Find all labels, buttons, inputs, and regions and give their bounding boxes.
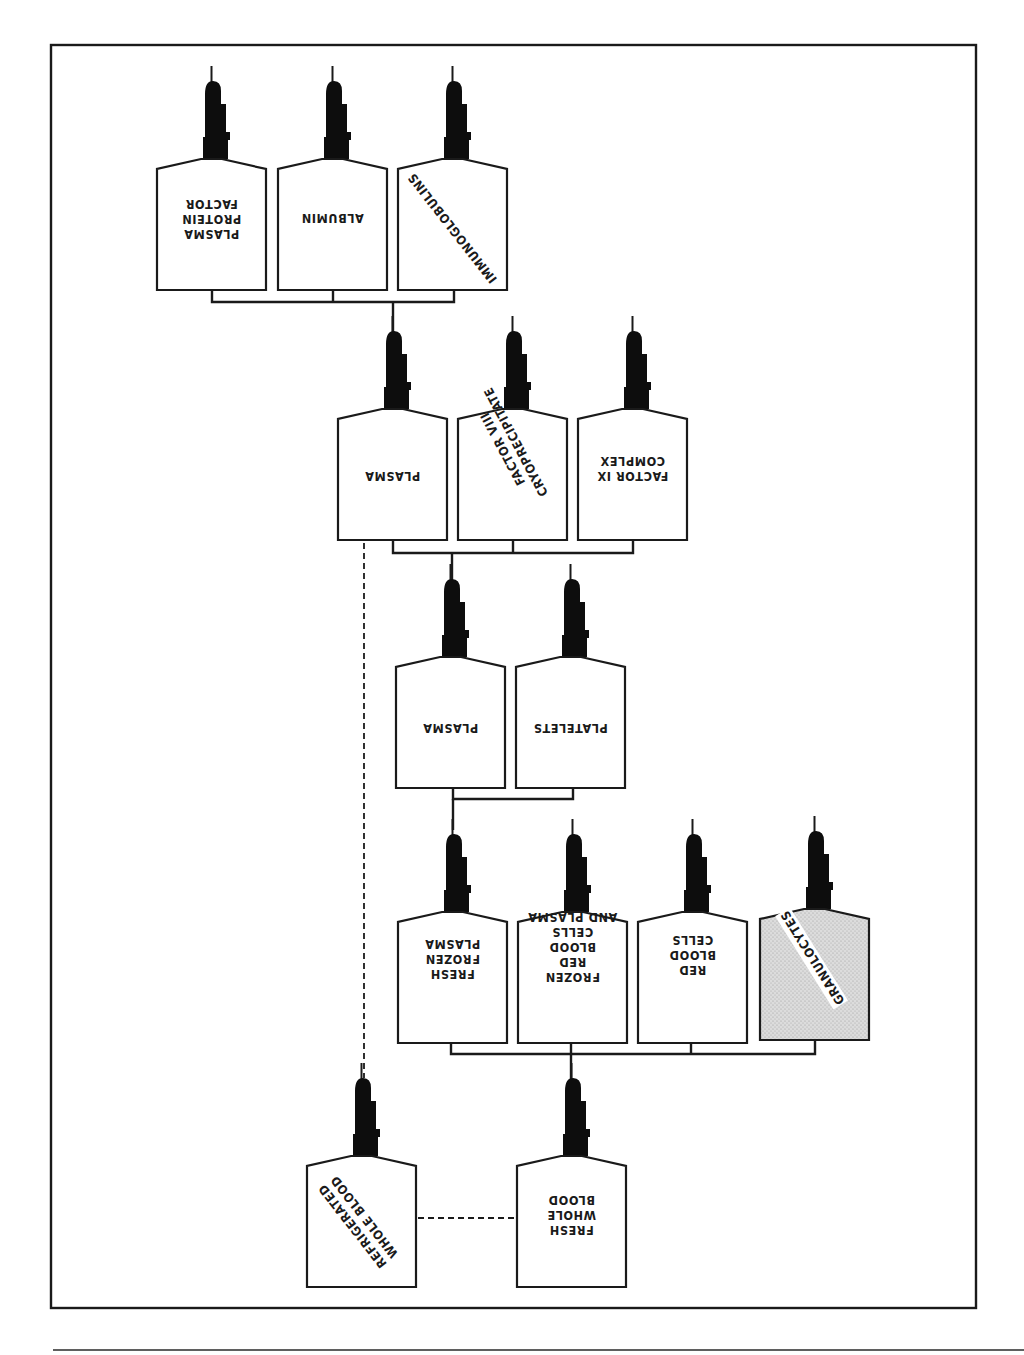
bottle-immunoglobulins: IMMUNOGLOBULINS [398, 66, 507, 290]
svg-text:RED: RED [559, 955, 586, 970]
bottle-cap-icon [203, 66, 230, 159]
bottle-albumin: ALBUMIN [278, 66, 387, 290]
bottle-cap-icon [442, 564, 469, 657]
svg-text:CELLS: CELLS [672, 933, 713, 948]
bottle-frozen-red-blood-cells-and-plasma: FROZEN RED BLOOD CELLS AND PLASMA [518, 819, 627, 1043]
bottle-cap-icon [444, 66, 471, 159]
svg-text:BLOOD: BLOOD [669, 948, 716, 963]
svg-text:FROZEN: FROZEN [545, 970, 600, 985]
svg-text:PROTEIN: PROTEIN [182, 212, 242, 227]
svg-text:FACTOR IX: FACTOR IX [597, 469, 668, 484]
bottle-cap-icon [624, 316, 651, 409]
bottle-cap-icon [324, 66, 351, 159]
bottle-refrigerated-whole-blood: REFRIGERATED WHOLE BLOOD [307, 1063, 416, 1287]
bottle-plasma-protein-factor: PLASMA PROTEIN FACTOR [157, 66, 266, 290]
svg-text:BLOOD: BLOOD [548, 1193, 595, 1208]
bottle-factor-viii-cryoprecipitate: FACTOR VIII CRYOPRECIPITATE [458, 316, 567, 540]
bottle-plasma-row3: PLASMA [396, 564, 505, 788]
svg-text:WHOLE: WHOLE [547, 1208, 596, 1223]
svg-text:PLASMA: PLASMA [425, 937, 481, 952]
svg-text:PLASMA: PLASMA [184, 227, 240, 242]
bottle-granulocytes: GRANULOCYTES [760, 816, 869, 1040]
bottle-cap-icon [564, 819, 591, 912]
svg-text:FACTOR: FACTOR [185, 197, 238, 212]
svg-text:RED: RED [679, 963, 706, 978]
svg-text:FRESH: FRESH [430, 967, 475, 982]
svg-text:CELLS: CELLS [552, 925, 593, 940]
svg-text:AND PLASMA: AND PLASMA [528, 910, 617, 925]
svg-text:COMPLEX: COMPLEX [600, 454, 665, 469]
bottle-cap-icon [806, 816, 833, 909]
svg-text:PLASMA: PLASMA [423, 721, 479, 736]
bottle-fresh-frozen-plasma: FRESH FROZEN PLASMA [398, 819, 507, 1043]
svg-text:ALBUMIN: ALBUMIN [301, 211, 364, 226]
bottle-cap-icon [444, 819, 471, 912]
svg-text:BLOOD: BLOOD [549, 940, 596, 955]
bottle-cap-icon [563, 1063, 590, 1156]
bottle-cap-icon [504, 316, 531, 409]
svg-text:FRESH: FRESH [549, 1223, 594, 1238]
bottle-platelets: PLATELETS [516, 564, 625, 788]
blood-components-diagram: PLASMA PROTEIN FACTOR ALBUMIN IMMUNOGLOB… [0, 0, 1024, 1355]
bottle-cap-icon [562, 564, 589, 657]
bottle-red-blood-cells: RED BLOOD CELLS [638, 819, 747, 1043]
bottle-fresh-whole-blood: FRESH WHOLE BLOOD [517, 1063, 626, 1287]
bottle-plasma-row2: PLASMA [338, 316, 447, 540]
bottle-cap-icon [353, 1063, 380, 1156]
svg-text:PLATELETS: PLATELETS [533, 721, 608, 736]
bottle-cap-icon [384, 316, 411, 409]
svg-text:FROZEN: FROZEN [425, 952, 480, 967]
svg-text:PLASMA: PLASMA [365, 469, 421, 484]
bottle-factor-ix-complex: FACTOR IX COMPLEX [578, 316, 687, 540]
bottle-cap-icon [684, 819, 711, 912]
